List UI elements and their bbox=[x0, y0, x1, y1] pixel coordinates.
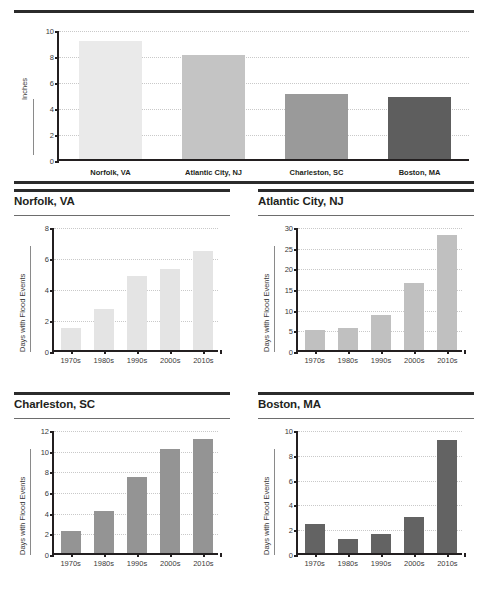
y-axis-label-bar bbox=[274, 449, 275, 555]
decade-bar bbox=[437, 440, 457, 553]
y-axis-label: Days with Flood Events bbox=[18, 477, 27, 555]
y-tick-label: 8 bbox=[45, 224, 49, 233]
decade-bar bbox=[160, 449, 180, 553]
x-tick-mark bbox=[348, 350, 350, 354]
x-tick-mark bbox=[447, 350, 449, 354]
summary-bar bbox=[285, 94, 349, 159]
x-decade-label: 1970s bbox=[60, 356, 80, 365]
x-tick-mark bbox=[414, 553, 416, 557]
y-tick-mark bbox=[294, 505, 298, 507]
y-tick-label: 4 bbox=[45, 286, 49, 295]
y-tick-mark bbox=[294, 311, 298, 313]
x-decade-label: 1990s bbox=[127, 356, 147, 365]
y-tick-mark bbox=[294, 555, 298, 557]
gridline bbox=[54, 228, 218, 229]
gridline bbox=[59, 31, 469, 32]
plot-area-norfolk: 024681970s1980s1990s2000s2010s bbox=[52, 228, 218, 352]
y-tick-mark bbox=[294, 530, 298, 532]
y-tick-label: 0 bbox=[45, 348, 49, 357]
chart-panel-atlantic-city: Atlantic City, NJ 0510152025301970s1980s… bbox=[244, 186, 488, 389]
y-tick-label: 4 bbox=[50, 105, 54, 114]
plot-area-boston: 02468101970s1980s1990s2000s2010s bbox=[296, 431, 462, 555]
y-tick-mark bbox=[50, 452, 54, 454]
y-tick-label: 10 bbox=[285, 306, 293, 315]
summary-chart-panel: Inches 0246810Norfolk, VAAtlantic City, … bbox=[0, 0, 488, 186]
y-tick-mark bbox=[55, 83, 59, 85]
y-axis-label-bar bbox=[30, 449, 31, 555]
x-tick-mark bbox=[348, 553, 350, 557]
decade-bar bbox=[338, 539, 358, 553]
panel-rule-bottom bbox=[258, 215, 474, 216]
y-tick-label: 2 bbox=[45, 317, 49, 326]
x-decade-label: 1970s bbox=[304, 559, 324, 568]
x-tick-mark bbox=[104, 553, 106, 557]
y-tick-mark bbox=[50, 472, 54, 474]
x-category-label: Atlantic City, NJ bbox=[185, 168, 242, 177]
y-tick-label: 8 bbox=[289, 451, 293, 460]
y-tick-label: 2 bbox=[289, 526, 293, 535]
x-tick-mark bbox=[203, 350, 205, 354]
decade-bar bbox=[127, 477, 147, 553]
y-tick-mark bbox=[50, 321, 54, 323]
panel-rule-bottom bbox=[258, 418, 474, 419]
chart-panel-charleston: Charleston, SC 0246810121970s1980s1990s2… bbox=[0, 389, 244, 592]
decade-bar bbox=[94, 309, 114, 350]
decade-bar bbox=[94, 511, 114, 553]
y-tick-label: 0 bbox=[289, 348, 293, 357]
y-tick-label: 5 bbox=[289, 327, 293, 336]
panel-rule-top bbox=[258, 189, 474, 192]
y-tick-mark bbox=[294, 456, 298, 458]
summary-bar bbox=[182, 55, 246, 159]
y-tick-label: 10 bbox=[285, 427, 293, 436]
x-tick-mark bbox=[137, 350, 139, 354]
y-axis-label-bar bbox=[274, 246, 275, 352]
y-tick-label: 0 bbox=[289, 551, 293, 560]
y-tick-label: 6 bbox=[45, 489, 49, 498]
y-axis-label: Days with Flood Events bbox=[262, 477, 271, 555]
x-decade-label: 1980s bbox=[338, 356, 358, 365]
y-tick-label: 15 bbox=[285, 286, 293, 295]
y-tick-mark bbox=[50, 290, 54, 292]
y-tick-mark bbox=[55, 135, 59, 137]
summary-bar bbox=[388, 97, 452, 159]
x-category-label: Charleston, SC bbox=[290, 168, 344, 177]
panel-title-charleston: Charleston, SC bbox=[14, 398, 95, 410]
y-tick-mark bbox=[294, 290, 298, 292]
y-tick-label: 10 bbox=[41, 447, 49, 456]
y-tick-mark bbox=[50, 493, 54, 495]
y-tick-mark bbox=[50, 431, 54, 433]
decade-bar bbox=[160, 269, 180, 350]
y-tick-mark bbox=[294, 228, 298, 230]
y-tick-label: 2 bbox=[45, 530, 49, 539]
summary-y-axis-label: Inches bbox=[20, 78, 29, 100]
chart-panel-norfolk: Norfolk, VA 024681970s1980s1990s2000s201… bbox=[0, 186, 244, 389]
decade-bar bbox=[305, 330, 325, 350]
y-tick-label: 2 bbox=[50, 131, 54, 140]
decade-bar bbox=[61, 328, 81, 350]
divider-rule-bottom bbox=[14, 181, 474, 184]
x-tick-mark bbox=[71, 553, 73, 557]
x-decade-label: 1980s bbox=[338, 559, 358, 568]
y-tick-label: 25 bbox=[285, 244, 293, 253]
x-decade-label: 2000s bbox=[404, 356, 424, 365]
panel-rule-top bbox=[14, 189, 230, 192]
x-category-label: Norfolk, VA bbox=[90, 168, 130, 177]
x-decade-label: 1990s bbox=[371, 356, 391, 365]
y-tick-mark bbox=[294, 352, 298, 354]
y-axis-label-bar bbox=[30, 246, 31, 352]
panel-rule-top bbox=[258, 392, 474, 395]
y-tick-mark bbox=[50, 259, 54, 261]
x-decade-label: 1970s bbox=[304, 356, 324, 365]
x-tick-mark bbox=[447, 553, 449, 557]
y-tick-mark bbox=[294, 269, 298, 271]
y-tick-label: 8 bbox=[45, 468, 49, 477]
y-tick-label: 20 bbox=[285, 265, 293, 274]
x-tick-mark bbox=[170, 350, 172, 354]
y-tick-mark bbox=[294, 481, 298, 483]
x-tick-mark bbox=[104, 350, 106, 354]
summary-y-axis-label-bar bbox=[33, 99, 34, 155]
plot-area-atlantic-city: 0510152025301970s1980s1990s2000s2010s bbox=[296, 228, 462, 352]
y-tick-mark bbox=[55, 31, 59, 33]
x-tick-mark bbox=[71, 350, 73, 354]
panel-rule-bottom bbox=[14, 418, 230, 419]
